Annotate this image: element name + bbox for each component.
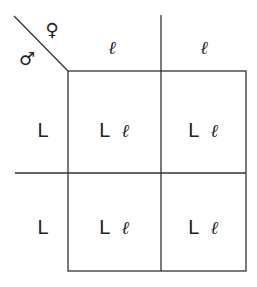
allele-recessive: ℓ <box>210 120 218 141</box>
column-header-1: ℓ <box>108 38 116 58</box>
grid-outer-box <box>68 71 246 271</box>
allele-dominant: L <box>188 119 199 141</box>
column-header-2: ℓ <box>200 38 208 58</box>
female-symbol: ♀ <box>45 20 58 40</box>
male-symbol: ♂ <box>19 49 35 69</box>
row-header-1: L <box>37 120 48 140</box>
allele-dominant: L <box>99 216 110 238</box>
allele-recessive: ℓ <box>121 217 129 238</box>
cell-1-1: L ℓ <box>99 120 129 141</box>
cell-1-2: L ℓ <box>188 120 218 141</box>
allele-recessive: ℓ <box>121 120 129 141</box>
cell-2-2: L ℓ <box>188 217 218 238</box>
allele-dominant: L <box>99 119 110 141</box>
cell-2-1: L ℓ <box>99 217 129 238</box>
punnett-grid <box>0 0 257 287</box>
allele-dominant: L <box>188 216 199 238</box>
allele-recessive: ℓ <box>210 217 218 238</box>
row-header-2: L <box>37 217 48 237</box>
